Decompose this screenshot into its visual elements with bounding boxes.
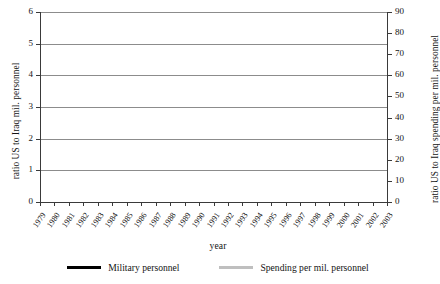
legend-item-military: Military personnel	[67, 262, 179, 273]
y-axis-left-tick-label: 4	[0, 69, 33, 79]
gridline	[40, 107, 388, 108]
y-axis-right-tick-label: 60	[395, 69, 435, 79]
y-axis-right-tick-label: 80	[395, 27, 435, 37]
y-axis-left-line	[40, 12, 41, 202]
y-axis-right-tick	[388, 202, 392, 203]
legend-swatch-military	[67, 266, 101, 269]
y-axis-left-tick-label: 1	[0, 164, 33, 174]
y-axis-left-tick-label: 0	[0, 196, 33, 206]
gridline	[40, 75, 388, 76]
y-axis-left-tick-label: 5	[0, 38, 33, 48]
gridline	[40, 170, 388, 171]
legend-item-spending: Spending per mil. personnel	[219, 262, 368, 273]
gridline	[40, 139, 388, 140]
y-axis-right-tick	[388, 118, 392, 119]
legend-swatch-spending	[219, 266, 253, 269]
y-axis-right-tick	[388, 96, 392, 97]
x-axis-title: year	[0, 240, 436, 251]
y-axis-right-tick	[388, 54, 392, 55]
y-axis-left-tick-label: 3	[0, 101, 33, 111]
y-axis-right-tick	[388, 33, 392, 34]
y-axis-left-title: ratio US to Iraq mil. personnel	[11, 21, 21, 221]
y-axis-left-tick-label: 2	[0, 133, 33, 143]
plot-area	[40, 12, 388, 202]
legend-label-military: Military personnel	[108, 262, 179, 273]
y-axis-right-tick-label: 10	[395, 175, 435, 185]
y-axis-right-tick	[388, 75, 392, 76]
y-axis-right-line	[387, 12, 388, 202]
y-axis-right-tick	[388, 139, 392, 140]
legend-label-spending: Spending per mil. personnel	[260, 262, 368, 273]
y-axis-left-tick-label: 6	[0, 6, 33, 16]
y-axis-right-tick-label: 30	[395, 133, 435, 143]
x-axis-line	[40, 202, 388, 203]
y-axis-right-tick-label: 20	[395, 154, 435, 164]
chart-legend: Military personnel Spending per mil. per…	[0, 262, 436, 273]
y-axis-right-tick-label: 50	[395, 90, 435, 100]
y-axis-right-tick	[388, 12, 392, 13]
y-axis-right-tick	[388, 181, 392, 182]
y-axis-right-tick-label: 90	[395, 6, 435, 16]
y-axis-right-tick-label: 0	[395, 196, 435, 206]
y-axis-right-tick-label: 70	[395, 48, 435, 58]
gridline	[40, 44, 388, 45]
y-axis-right-tick	[388, 160, 392, 161]
y-axis-right-tick-label: 40	[395, 112, 435, 122]
gridline	[40, 12, 388, 13]
